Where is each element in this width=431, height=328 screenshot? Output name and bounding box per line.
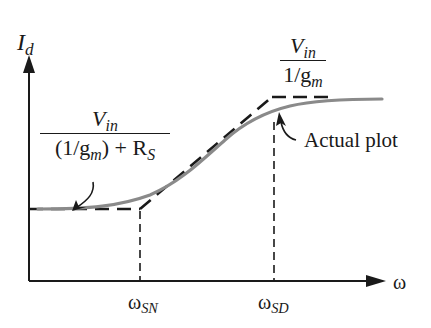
actual-plot-annotation-text: Actual plot (304, 128, 398, 152)
low-label-pointer-icon (76, 182, 93, 208)
high-level-numerator: Vin (280, 34, 326, 58)
low-level-fraction-bar (40, 133, 170, 134)
plot-canvas (0, 0, 431, 328)
tick-omega-sn-sub: SN (141, 300, 158, 316)
y-axis-label-sub: d (25, 40, 34, 59)
low-level-label: Vin (1/gm) + RS (40, 107, 170, 160)
x-axis-label: ω (393, 272, 406, 292)
low-level-numerator: Vin (40, 107, 170, 131)
high-level-label: Vin 1/gm (280, 34, 326, 87)
tick-omega-sd-sub: SD (271, 300, 289, 316)
x-axis-label-text: ω (393, 271, 406, 293)
tick-omega-sd-main: ω (258, 291, 271, 313)
x-axis-arrow-icon (366, 275, 386, 287)
tick-omega-sd: ωSD (258, 292, 289, 312)
actual-plot-pointer-icon (281, 122, 296, 140)
high-level-denominator: 1/gm (280, 63, 326, 87)
tick-omega-sn: ωSN (128, 292, 158, 312)
y-axis-label: Id (17, 30, 34, 54)
actual-plot-annotation: Actual plot (304, 130, 398, 151)
high-level-fraction-bar (280, 60, 326, 61)
low-level-denominator: (1/gm) + RS (40, 136, 170, 160)
tick-omega-sn-main: ω (128, 291, 141, 313)
y-axis-label-main: I (17, 29, 25, 55)
